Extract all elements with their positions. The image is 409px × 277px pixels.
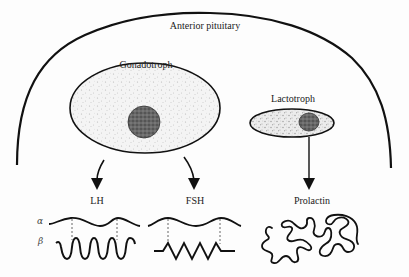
diagram-canvas <box>0 0 409 277</box>
lactotroph-cell <box>250 109 334 137</box>
fsh-beta-chain <box>154 243 235 259</box>
fsh-label: FSH <box>186 196 204 206</box>
lh-beta-chain <box>56 238 135 259</box>
lh-arrowhead-icon <box>91 178 103 190</box>
gonadotroph-nucleus <box>128 106 160 138</box>
lactotroph-label: Lactotroph <box>271 94 315 104</box>
lh-alpha-chain <box>49 218 140 226</box>
prolactin-arrowhead-icon <box>303 178 315 190</box>
fsh-arrow <box>184 157 194 180</box>
beta-subunit-label: β <box>38 237 43 246</box>
gonadotroph-cell <box>70 63 220 153</box>
alpha-subunit-label: α <box>37 217 43 226</box>
prolactin-label: Prolactin <box>294 196 330 206</box>
gonadotroph-label: Gonadotroph <box>120 60 173 70</box>
lactotroph-nucleus <box>299 113 319 131</box>
fsh-arrowhead-icon <box>188 178 200 190</box>
anterior-pituitary-label: Anterior pituitary <box>170 21 240 31</box>
lh-arrow <box>97 160 104 180</box>
prolactin-chain <box>262 215 358 263</box>
lh-label: LH <box>90 196 103 206</box>
fsh-alpha-chain <box>148 218 241 226</box>
lactotroph-cytoplasm <box>250 109 334 137</box>
